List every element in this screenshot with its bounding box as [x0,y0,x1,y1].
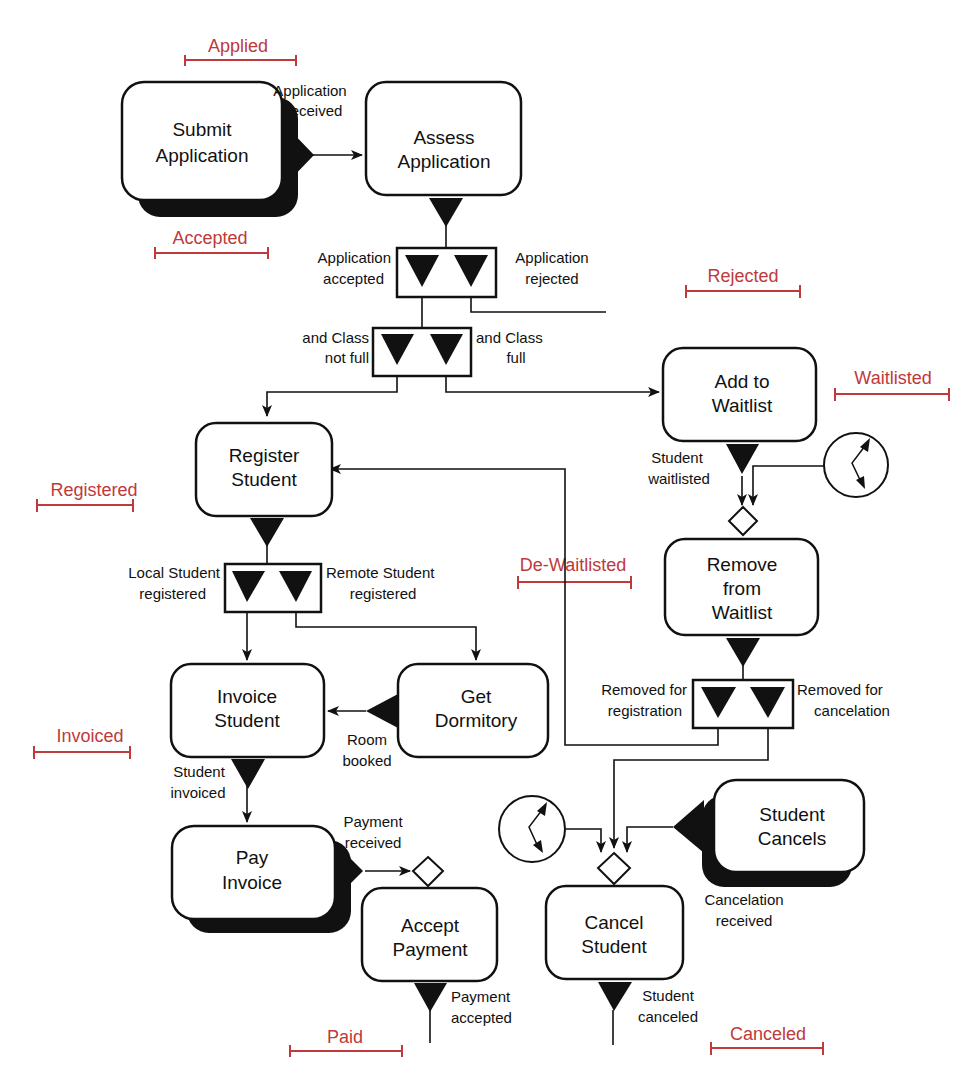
svg-text:and Class: and Class [302,329,369,346]
svg-text:waitlisted: waitlisted [647,470,710,487]
svg-text:registered: registered [139,585,206,602]
event-class-full: and Class full [476,329,543,366]
svg-text:De-Waitlisted: De-Waitlisted [520,555,626,575]
state-invoiced: Invoiced [34,726,130,759]
svg-text:not full: not full [325,349,369,366]
state-registered: Registered [37,480,138,512]
svg-text:invoiced: invoiced [170,784,225,801]
svg-text:Application: Application [318,249,391,266]
svg-text:Cancelation: Cancelation [704,891,783,908]
svg-text:Waitlisted: Waitlisted [854,368,931,388]
svg-text:Student: Student [642,987,695,1004]
event-application-accepted: Application accepted [318,249,391,287]
event-removed-for-registration: Removed for registration [601,681,687,719]
svg-text:Application: Application [156,145,249,166]
svg-text:Invoice: Invoice [217,686,277,707]
svg-text:Application: Application [515,249,588,266]
svg-text:Get: Get [461,686,492,707]
svg-text:Student: Student [173,763,226,780]
event-student-invoiced: Student invoiced [170,763,225,801]
svg-text:Cancel: Cancel [584,912,643,933]
svg-text:Local Student: Local Student [128,564,221,581]
svg-text:Waitlist: Waitlist [712,602,773,623]
svg-text:Assess: Assess [413,127,474,148]
svg-text:from: from [723,578,761,599]
svg-text:Invoice: Invoice [222,872,282,893]
activity-remove-from-waitlist[interactable]: Remove from Waitlist [665,539,818,667]
merge-diamond-payment [413,857,443,886]
state-applied: Applied [185,36,296,66]
event-room-booked: Room booked [342,731,391,769]
svg-text:registration: registration [608,702,682,719]
event-student-waitlisted: Student waitlisted [647,449,710,487]
svg-text:Canceled: Canceled [730,1024,806,1044]
svg-text:Student: Student [759,804,825,825]
state-paid: Paid [290,1027,402,1057]
svg-text:received: received [345,834,402,851]
activity-student-cancels[interactable]: Student Cancels [673,780,864,887]
svg-text:Student: Student [231,469,297,490]
svg-text:registered: registered [350,585,417,602]
event-payment-accepted: Payment accepted [451,988,512,1026]
event-group-class-capacity [373,328,471,376]
svg-text:Pay: Pay [236,847,269,868]
svg-text:Accept: Accept [401,915,460,936]
svg-text:received: received [716,912,773,929]
event-application-rejected: Application rejected [515,249,588,287]
svg-text:booked: booked [342,752,391,769]
event-payment-received: Payment received [343,813,403,851]
timer-event-icon [824,433,888,497]
svg-text:Removed for: Removed for [601,681,687,698]
state-accepted: Accepted [155,228,268,259]
svg-text:Register: Register [229,445,300,466]
svg-text:Removed for: Removed for [797,681,883,698]
state-de-waitlisted: De-Waitlisted [518,555,631,589]
svg-text:full: full [506,349,525,366]
svg-text:Registered: Registered [50,480,137,500]
timer-event-icon [499,796,565,862]
svg-text:accepted: accepted [323,270,384,287]
activity-get-dormitory[interactable]: Get Dormitory [366,664,548,757]
event-remote-student-registered: Remote Student registered [326,564,435,602]
svg-text:Waitlist: Waitlist [712,395,773,416]
svg-text:Payment: Payment [343,813,403,830]
svg-text:Payment: Payment [451,988,511,1005]
merge-diamond [729,507,757,535]
svg-text:Payment: Payment [393,939,469,960]
svg-text:cancelation: cancelation [814,702,890,719]
state-waitlisted: Waitlisted [835,368,949,401]
svg-text:rejected: rejected [525,270,578,287]
event-group-waitlist-removal [693,680,793,728]
svg-text:Paid: Paid [327,1027,363,1047]
svg-text:Application: Application [398,151,491,172]
svg-text:canceled: canceled [638,1008,698,1025]
event-group-student-location [225,564,321,612]
event-cancelation-received: Cancelation received [704,891,783,929]
svg-text:Add to: Add to [715,371,770,392]
svg-text:received: received [286,102,343,119]
event-removed-for-cancelation: Removed for cancelation [797,681,890,719]
svg-text:Invoiced: Invoiced [56,726,123,746]
activity-assess-application[interactable]: Assess Application [366,82,521,227]
activity-register-student[interactable]: Register Student [196,423,332,547]
svg-text:Accepted: Accepted [172,228,247,248]
svg-text:Remove: Remove [707,554,778,575]
svg-text:accepted: accepted [451,1009,512,1026]
svg-text:Application: Application [273,82,346,99]
svg-text:Remote Student: Remote Student [326,564,435,581]
activity-pay-invoice[interactable]: Pay Invoice [172,826,363,933]
svg-text:Submit: Submit [172,119,232,140]
event-group-application-outcome [397,248,496,297]
svg-text:and Class: and Class [476,329,543,346]
merge-diamond-cancel [598,853,630,884]
svg-text:Room: Room [347,731,387,748]
event-local-student-registered: Local Student registered [128,564,221,602]
event-class-not-full: and Class not full [302,329,369,366]
state-canceled: Canceled [711,1024,823,1055]
state-rejected: Rejected [686,266,800,298]
svg-text:Student: Student [581,936,647,957]
svg-text:Rejected: Rejected [707,266,778,286]
svg-text:Cancels: Cancels [758,828,827,849]
svg-text:Applied: Applied [208,36,268,56]
svg-text:Dormitory: Dormitory [435,710,518,731]
